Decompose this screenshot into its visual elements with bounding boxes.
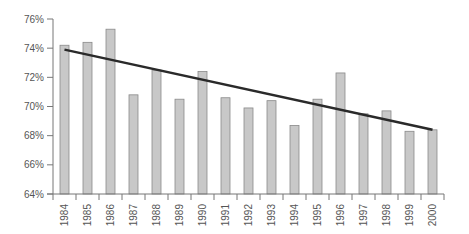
bar-1984 xyxy=(60,45,69,194)
bar-1998 xyxy=(382,111,391,194)
bar-1994 xyxy=(290,125,299,194)
bar-1995 xyxy=(313,99,322,194)
bar-1997 xyxy=(359,114,368,194)
x-tick-label: 1984 xyxy=(59,204,70,227)
x-tick-label: 1990 xyxy=(197,204,208,227)
x-tick-label: 1997 xyxy=(358,204,369,227)
y-axis: 64%66%68%70%72%74%76% xyxy=(24,14,53,200)
bar-1993 xyxy=(267,101,276,194)
x-tick-label: 1998 xyxy=(381,204,392,227)
x-tick-label: 1987 xyxy=(128,204,139,227)
x-axis: 1984198519861987198819891990199119921993… xyxy=(47,194,444,226)
bar-1989 xyxy=(175,99,184,194)
y-tick-label: 70% xyxy=(24,101,44,112)
bar-1992 xyxy=(244,108,253,194)
x-tick-label: 1988 xyxy=(151,204,162,227)
x-tick-label: 1985 xyxy=(82,204,93,227)
x-tick-label: 1992 xyxy=(243,204,254,227)
bar-2000 xyxy=(428,130,437,194)
x-tick-label: 1994 xyxy=(289,204,300,227)
x-tick-label: 1993 xyxy=(266,204,277,227)
bar-chart: 64%66%68%70%72%74%76% 198419851986198719… xyxy=(0,0,469,234)
bar-1987 xyxy=(129,95,138,194)
x-tick-label: 1999 xyxy=(404,204,415,227)
y-tick-label: 74% xyxy=(24,43,44,54)
bars xyxy=(60,29,437,194)
x-tick-label: 2000 xyxy=(427,204,438,227)
bar-1986 xyxy=(106,29,115,194)
bar-1996 xyxy=(336,73,345,194)
x-tick-label: 1986 xyxy=(105,204,116,227)
x-tick-label: 1996 xyxy=(335,204,346,227)
y-tick-label: 68% xyxy=(24,130,44,141)
y-tick-label: 72% xyxy=(24,72,44,83)
y-tick-label: 64% xyxy=(24,189,44,200)
y-tick-label: 66% xyxy=(24,159,44,170)
bar-1999 xyxy=(405,131,414,194)
y-tick-label: 76% xyxy=(24,14,44,25)
bar-1990 xyxy=(198,72,207,195)
bar-1988 xyxy=(152,70,161,194)
bar-1991 xyxy=(221,98,230,194)
x-tick-label: 1991 xyxy=(220,204,231,227)
x-tick-label: 1989 xyxy=(174,204,185,227)
x-tick-label: 1995 xyxy=(312,204,323,227)
bar-1985 xyxy=(83,42,92,194)
